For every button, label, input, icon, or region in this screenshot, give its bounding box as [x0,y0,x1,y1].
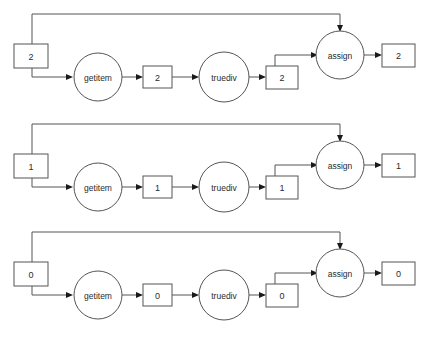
graph-row: 2 getitem 2 truediv 2 [14,14,415,102]
arrow-head-icon [136,292,143,298]
truediv-output-box[interactable]: 2 [266,66,298,89]
assign-node[interactable]: assign [316,141,364,189]
truediv-node-label: truediv [211,73,237,83]
getitem-node-label: getitem [84,291,112,301]
arrow-head-icon [375,52,382,58]
getitem-output-box-label: 1 [155,183,160,193]
input-value-box[interactable]: 2 [14,44,48,68]
truediv-node-label: truediv [211,291,237,301]
edge-input-to-assign [32,124,340,154]
edge-input-to-assign [32,14,340,44]
getitem-node-label: getitem [84,183,112,193]
arrow-head-icon [259,292,266,298]
truediv-output-box-label: 0 [279,291,284,301]
getitem-node[interactable]: getitem [74,163,122,211]
input-value-box[interactable]: 1 [14,154,48,178]
assign-output-box[interactable]: 1 [382,154,415,177]
input-value-box-label: 1 [28,162,33,172]
getitem-node-label: getitem [84,73,112,83]
truediv-output-box[interactable]: 1 [266,176,298,199]
assign-output-box-label: 1 [396,161,401,171]
arrow-head-icon [136,184,143,190]
diagram-canvas: 2 getitem 2 truediv 2 [0,0,433,337]
arrow-head-icon [375,270,382,276]
getitem-output-box-label: 2 [155,73,160,83]
edge-input-to-getitem [32,178,69,187]
truediv-node[interactable]: truediv [199,270,249,320]
arrow-head-icon [192,184,199,190]
input-value-box[interactable]: 0 [14,262,48,286]
assign-output-box-label: 2 [396,51,401,61]
truediv-output-box-label: 2 [279,73,284,83]
edge-value-to-assign [275,165,314,176]
getitem-node[interactable]: getitem [74,53,122,101]
assign-output-box[interactable]: 2 [382,44,415,67]
getitem-output-box[interactable]: 2 [143,66,172,88]
getitem-output-box[interactable]: 0 [143,284,172,306]
assign-node-label: assign [328,161,353,171]
edge-value-to-assign [275,55,314,66]
edge-value-to-assign [275,273,314,284]
assign-output-box[interactable]: 0 [382,262,415,285]
edge-input-to-assign [32,232,340,262]
truediv-node[interactable]: truediv [199,162,249,212]
truediv-node-label: truediv [211,183,237,193]
truediv-node[interactable]: truediv [199,52,249,102]
arrow-head-icon [192,74,199,80]
input-value-box-label: 2 [28,52,33,62]
arrow-head-icon [375,162,382,168]
assign-node[interactable]: assign [316,249,364,297]
arrow-head-icon [259,74,266,80]
graph-row: 1 getitem 1 truediv 1 assign [14,124,415,212]
truediv-output-box[interactable]: 0 [266,284,298,307]
assign-output-box-label: 0 [396,269,401,279]
getitem-output-box[interactable]: 1 [143,176,172,198]
getitem-node[interactable]: getitem [74,271,122,319]
arrow-head-icon [66,184,73,190]
assign-node-label: assign [328,51,353,61]
assign-node-label: assign [328,269,353,279]
truediv-output-box-label: 1 [279,183,284,193]
edge-input-to-getitem [32,286,69,295]
computational-graph-svg: 2 getitem 2 truediv 2 [0,0,433,337]
arrow-head-icon [66,74,73,80]
graph-row: 0 getitem 0 truediv 0 assign [14,232,415,320]
getitem-output-box-label: 0 [155,291,160,301]
arrow-head-icon [192,292,199,298]
edge-input-to-getitem [32,68,69,77]
assign-node[interactable]: assign [316,31,364,79]
arrow-head-icon [136,74,143,80]
arrow-head-icon [259,184,266,190]
input-value-box-label: 0 [28,270,33,280]
arrow-head-icon [66,292,73,298]
